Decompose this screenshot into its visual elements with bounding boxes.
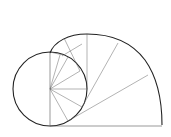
- involute-curve: [50, 34, 162, 125]
- involute-diagram: [0, 0, 171, 137]
- tangent-lines: [50, 34, 148, 121]
- radial-lines: [50, 55, 87, 121]
